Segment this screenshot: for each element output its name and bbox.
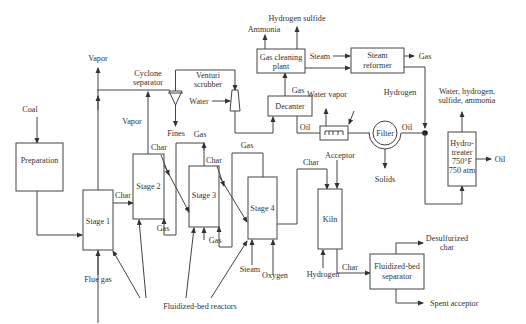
gas-s3-to-s2-label: Gas xyxy=(157,224,170,233)
solids-label: Solids xyxy=(375,175,395,184)
oil-out-label: Oil xyxy=(495,155,506,164)
fines-label: Fines xyxy=(167,129,185,138)
oil-decanter-label: Oil xyxy=(300,123,311,132)
stage3-label: Stage 3 xyxy=(192,191,216,200)
hydrotreater-label-3: 750°F xyxy=(452,157,473,166)
gas-cleaning-label-1: Gas cleaning xyxy=(260,53,303,62)
gas-s4-out-label: Gas xyxy=(241,141,254,150)
oil-dehydrator-box xyxy=(320,126,348,140)
gas-s3-out-label: Gas xyxy=(194,130,207,139)
char-s3-s4-label: Char xyxy=(206,156,222,165)
cyclone-label-1: Cyclone xyxy=(134,69,162,78)
spent-acceptor-label: Spent acceptor xyxy=(430,299,479,308)
oil-dehydrator-pointer xyxy=(349,111,354,124)
fb-pointer-stage1 xyxy=(113,251,140,298)
hydro-out-label-2: sulfide, ammonia xyxy=(439,96,496,105)
cyclone-label-2: separator xyxy=(133,78,163,87)
fb-pointer-stage2 xyxy=(139,220,146,298)
water-vapor-label: Water vapor xyxy=(307,90,347,99)
acceptor-label: Acceptor xyxy=(325,151,355,160)
char-s4-kiln-label: Char xyxy=(303,158,319,167)
preparation-label: Preparation xyxy=(21,156,59,165)
preparation-box xyxy=(16,143,63,191)
desulfurized-char-label-1: Desulfurized xyxy=(426,234,468,243)
gas-out-label: Gas xyxy=(419,52,432,61)
steam-s4-label: Steam xyxy=(240,265,261,274)
fb-separator-label-1: Fluidized-bed xyxy=(374,262,419,271)
hydrotreater-label-4: 750 atm xyxy=(449,166,476,175)
stage1-label: Stage 1 xyxy=(86,217,110,226)
stage4-label: Stage 4 xyxy=(250,204,274,213)
vapor-top-label: Vapor xyxy=(88,54,108,63)
char-s2-s3-label: Char xyxy=(151,143,167,152)
process-flow-diagram: Coal Preparation Stage 1 Vapor Flue gas … xyxy=(0,0,526,324)
hydrogen-label: Hydrogen xyxy=(384,88,417,97)
kiln-label: Kiln xyxy=(323,215,338,224)
desulfurized-char-label-2: char xyxy=(440,243,454,252)
water-label: Water xyxy=(189,97,209,106)
oxygen-label: Oxygen xyxy=(262,271,288,280)
steam-in-label: Steam xyxy=(310,52,331,61)
prep-to-stage1-arrow xyxy=(37,191,82,235)
spent-acceptor-arrow xyxy=(396,289,423,303)
hydrogen-sulfide-label: Hydrogen sulfide xyxy=(268,14,325,23)
gas-cleaning-label-2: plant xyxy=(273,62,290,71)
venturi-scrubber-shape xyxy=(230,90,240,111)
fb-pointer-stage3 xyxy=(186,228,194,298)
gas-s4-to-s3-label: Gas xyxy=(209,236,222,245)
vapor-mid-label: Vapor xyxy=(122,117,142,126)
decanter-label: Decanter xyxy=(275,102,305,111)
fb-reactors-label: Fluidized-bed reactors xyxy=(163,302,236,311)
venturi-label-2: scrubber xyxy=(194,80,222,89)
hydrotreater-label-2: treater xyxy=(452,148,473,157)
venturi-to-decanter-line xyxy=(235,111,273,133)
coal-label: Coal xyxy=(22,105,38,114)
venturi-label-1: Venturi xyxy=(196,71,221,80)
char-s1-s2-label: Char xyxy=(115,191,131,200)
ammonia-label: Ammonia xyxy=(248,25,281,34)
oil-filter-label: Oil xyxy=(402,123,413,132)
char-kiln-sep-label: Char xyxy=(342,263,358,272)
stage2-label: Stage 2 xyxy=(136,182,160,191)
hydrogen-kiln-label: Hydrogen xyxy=(307,270,340,279)
gas-decanter-label: Gas xyxy=(292,86,305,95)
hydro-out-label-1: Water, hydrogen, xyxy=(439,87,495,96)
steam-reformer-label-2: reformer xyxy=(363,61,392,70)
desulfurized-char-arrow xyxy=(396,243,423,254)
steam-reformer-label-1: Steam xyxy=(367,51,388,60)
hydrotreater-label-1: Hydro- xyxy=(450,139,474,148)
flue-gas-label: Flue gas xyxy=(84,275,112,284)
hydrogen-line xyxy=(404,67,425,128)
filter-label: Filter xyxy=(376,129,394,138)
fb-separator-label-2: separator xyxy=(382,272,412,281)
